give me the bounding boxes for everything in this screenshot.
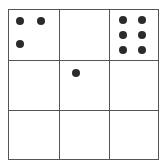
dot: [138, 16, 146, 24]
grid-line-horizontal-2: [9, 110, 158, 111]
dot: [16, 17, 24, 25]
dot: [119, 16, 127, 24]
grid-line-horizontal-1: [9, 60, 158, 61]
dot: [138, 46, 146, 54]
grid-line-vertical-1: [59, 10, 60, 159]
dot: [138, 31, 146, 39]
dot: [72, 69, 80, 77]
dot: [119, 31, 127, 39]
dot: [16, 40, 24, 48]
dot: [119, 46, 127, 54]
grid-line-vertical-2: [109, 10, 110, 159]
dot-grid: [8, 9, 159, 160]
dot: [37, 17, 45, 25]
